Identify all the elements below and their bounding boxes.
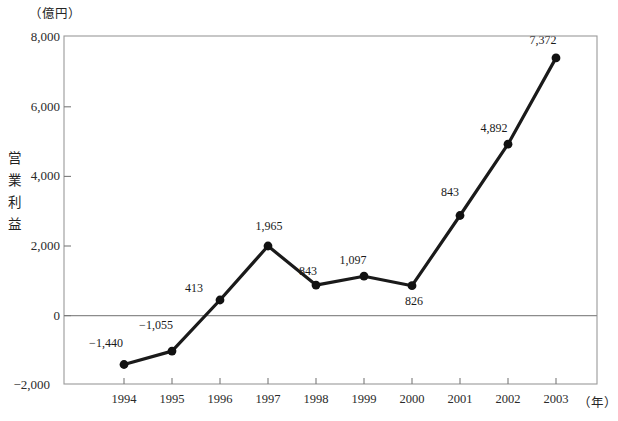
data-point-2003 <box>552 54 561 63</box>
plot-frame <box>64 36 597 384</box>
x-axis-ticks <box>124 378 556 384</box>
data-point-1998 <box>312 281 321 290</box>
data-point-1995 <box>168 347 177 356</box>
data-point-2002 <box>504 140 513 149</box>
data-point-1999 <box>360 272 369 281</box>
chart-container: （億円） 営 業 利 益 8,000 6,000 4,000 2,000 0 −… <box>0 0 618 421</box>
data-point-1994 <box>120 360 129 369</box>
data-markers <box>120 54 561 369</box>
data-point-1996 <box>216 296 225 305</box>
plot-area <box>0 0 618 421</box>
data-point-2000 <box>408 281 417 290</box>
data-point-1997 <box>264 242 273 251</box>
data-line-series-1 <box>124 58 556 365</box>
data-point-2001 <box>456 211 465 220</box>
y-axis-ticks <box>64 107 71 316</box>
